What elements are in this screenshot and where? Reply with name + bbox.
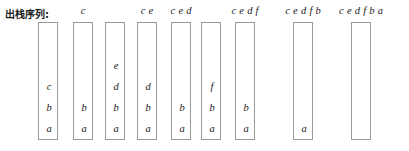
stack-state-8: cedfba <box>293 0 313 151</box>
stack-items: a <box>294 118 314 139</box>
stack-container-box: a <box>293 22 313 140</box>
stack-element: b <box>106 97 126 118</box>
stack-container-box: ab <box>73 22 93 140</box>
stack-element: a <box>138 118 158 139</box>
stack-container-box: ab <box>171 22 191 140</box>
stack-container-box: ab <box>235 22 255 140</box>
pop-sequence-label: ced <box>169 5 193 16</box>
stack-state-4: ceabd <box>137 0 157 151</box>
stack-element: a <box>39 118 59 139</box>
pop-sequence-label: cedf <box>230 5 260 16</box>
stack-element: b <box>138 97 158 118</box>
stack-container-box: abde <box>105 22 125 140</box>
stack-container-box <box>351 22 371 140</box>
stack-items: abd <box>138 76 158 139</box>
pop-sequence-label: cedfb <box>284 5 323 16</box>
stack-element: a <box>236 118 256 139</box>
stack-element: c <box>39 76 59 97</box>
stack-element: a <box>294 118 314 139</box>
stack-element: a <box>202 118 222 139</box>
stack-items: abc <box>39 76 59 139</box>
stack-element: b <box>172 97 192 118</box>
stack-element: e <box>106 55 126 76</box>
stack-element: b <box>39 97 59 118</box>
stack-sequence-diagram: 出栈序列: abccababdeceabdcedababfcedfabcedfb… <box>0 0 409 151</box>
stack-element: a <box>106 118 126 139</box>
pop-sequence-label: ce <box>139 5 155 16</box>
stack-state-2: cab <box>73 0 93 151</box>
pop-sequence-label: cedfba <box>337 5 384 16</box>
stack-items: abde <box>106 55 126 139</box>
stack-items: ab <box>74 97 94 139</box>
stack-items: ab <box>172 97 192 139</box>
stack-state-7: cedfab <box>235 0 255 151</box>
stack-container-box: abd <box>137 22 157 140</box>
stack-state-6: abf <box>201 0 221 151</box>
stack-element: a <box>172 118 192 139</box>
stack-element: b <box>236 97 256 118</box>
stack-state-1: abc <box>38 0 58 151</box>
stack-items: ab <box>236 97 256 139</box>
stack-items: abf <box>202 76 222 139</box>
stack-element: b <box>74 97 94 118</box>
stack-state-3: abde <box>105 0 125 151</box>
stack-state-9: cedfba <box>351 0 371 151</box>
stack-element: b <box>202 97 222 118</box>
stack-element: a <box>74 118 94 139</box>
stack-element: d <box>106 76 126 97</box>
pop-sequence-label: c <box>79 5 87 16</box>
stack-container-box: abc <box>38 22 58 140</box>
stack-element: f <box>202 76 222 97</box>
stack-element: d <box>138 76 158 97</box>
stack-state-5: cedab <box>171 0 191 151</box>
stack-container-box: abf <box>201 22 221 140</box>
